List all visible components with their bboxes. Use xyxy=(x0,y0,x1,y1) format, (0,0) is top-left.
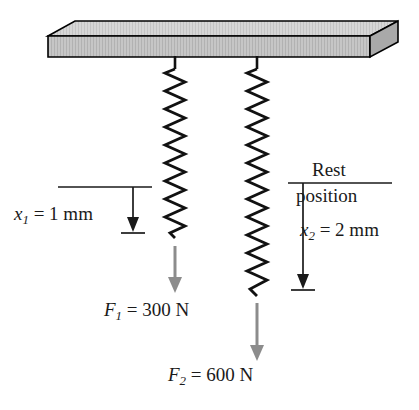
label-f2-value: 600 N xyxy=(206,364,253,385)
label-f2-equals: = xyxy=(186,364,206,385)
force-arrow-1 xyxy=(168,246,182,293)
slab-front-face xyxy=(48,36,370,57)
label-x1: x1 = 1 mm xyxy=(14,204,93,227)
label-f2: F2 = 600 N xyxy=(168,365,253,388)
label-rest: Rest xyxy=(312,160,346,179)
spring-2-coil xyxy=(247,69,267,296)
label-f1-value: 300 N xyxy=(142,299,189,320)
ceiling-slab xyxy=(48,21,398,57)
force-arrow-1-head xyxy=(168,277,182,293)
label-x2-equals: = xyxy=(315,219,335,240)
slab-top-face xyxy=(48,21,398,36)
spring-2 xyxy=(247,56,267,296)
label-position: position xyxy=(296,186,357,205)
dimension-x2-arrowhead xyxy=(297,274,309,289)
label-f1-symbol: F xyxy=(104,299,116,320)
label-x2: x2 = 2 mm xyxy=(300,220,379,243)
force-arrow-2-head xyxy=(250,345,264,361)
label-f1-equals: = xyxy=(122,299,142,320)
spring-1 xyxy=(165,56,185,238)
label-f2-symbol: F xyxy=(168,364,180,385)
spring-force-diagram: x1 = 1 mm Rest position x2 = 2 mm F1 = 3… xyxy=(0,0,419,410)
force-arrow-2 xyxy=(250,303,264,361)
spring-1-coil xyxy=(165,69,185,238)
dimension-x1-arrowhead xyxy=(127,217,139,232)
label-x1-value: 1 mm xyxy=(49,203,93,224)
label-f1: F1 = 300 N xyxy=(104,300,189,323)
label-x2-value: 2 mm xyxy=(335,219,379,240)
label-x1-equals: = xyxy=(29,203,49,224)
